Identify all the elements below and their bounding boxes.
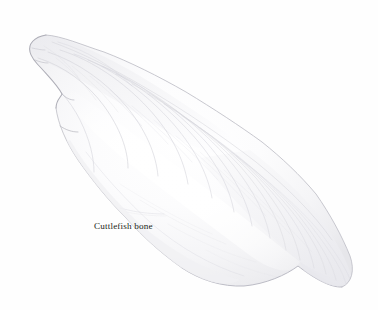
illustration-plate: Cuttlefish bone <box>0 0 378 310</box>
cuttlefish-bone-drawing <box>0 0 378 310</box>
figure-caption: Cuttlefish bone <box>94 221 153 232</box>
